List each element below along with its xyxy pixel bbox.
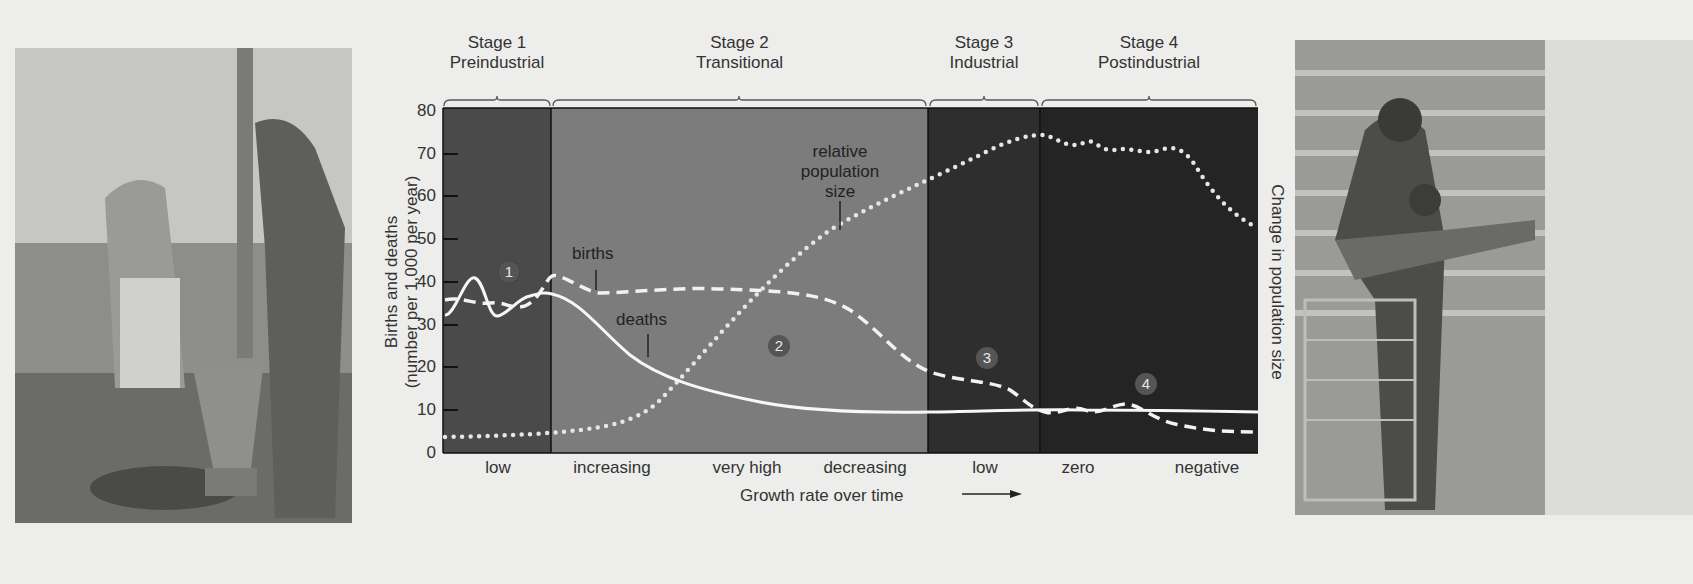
population-annotation-line2: population [790, 162, 890, 182]
y-axis-title-line1: Births and deaths [382, 176, 402, 389]
x-tick-very-high: very high [713, 458, 782, 478]
population-annotation-line1: relative [790, 142, 890, 162]
x-tick-increasing: increasing [573, 458, 651, 478]
x-tick-low-stage3: low [972, 458, 998, 478]
stage-4-region [1040, 108, 1258, 453]
y-tick-10: 10 [406, 400, 436, 420]
x-tick-decreasing: decreasing [823, 458, 906, 478]
population-annotation: relative population size [790, 142, 890, 202]
births-annotation: births [572, 244, 614, 264]
x-tick-zero: zero [1061, 458, 1094, 478]
stage-braces [444, 96, 1256, 106]
deaths-annotation: deaths [616, 310, 667, 330]
x-tick-low-stage1: low [485, 458, 511, 478]
y-tick-0: 0 [406, 443, 436, 463]
y-tick-20: 20 [406, 357, 436, 377]
stage-2-marker: 2 [769, 336, 789, 356]
y-tick-70: 70 [406, 144, 436, 164]
stage-3-marker: 3 [977, 348, 997, 368]
y-tick-50: 50 [406, 229, 436, 249]
stage-1-region [443, 108, 551, 453]
y-tick-60: 60 [406, 186, 436, 206]
y-tick-40: 40 [406, 272, 436, 292]
stage-4-marker: 4 [1136, 374, 1156, 394]
population-annotation-line3: size [790, 182, 890, 202]
x-axis-title: Growth rate over time [740, 486, 903, 506]
x-tick-negative: negative [1175, 458, 1239, 478]
right-axis-title: Change in population size [1267, 184, 1287, 380]
stage-1-marker: 1 [499, 262, 519, 282]
y-tick-30: 30 [406, 315, 436, 335]
y-tick-80: 80 [406, 101, 436, 121]
